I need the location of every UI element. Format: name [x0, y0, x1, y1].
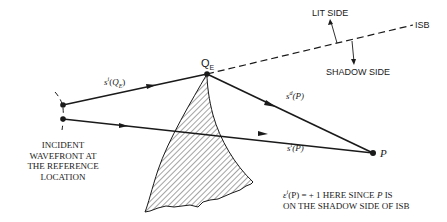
edge-point-label: QE: [201, 57, 214, 74]
observation-point-p: [370, 150, 376, 156]
wavefront-point-lower: [60, 116, 66, 122]
wavefront-caption: INCIDENT WAVEFRONT AT THE REFERENCE LOCA…: [20, 140, 106, 182]
incident-to-p-label: si(P): [287, 140, 304, 153]
lit-side-arrow: [331, 22, 337, 43]
arrowhead-icon: [328, 19, 333, 25]
shadow-note: εi(P) = + 1 HERE SINCE P IS ON THE SHADO…: [283, 187, 409, 211]
isb-label: ISB: [415, 20, 430, 30]
obstacle-wedge: [145, 74, 253, 212]
caption-line: INCIDENT: [20, 140, 106, 151]
arrowhead-icon: [264, 100, 276, 107]
arg-p: (P): [293, 91, 305, 101]
note-line-2: ON THE SHADOW SIDE OF ISB: [283, 201, 409, 212]
shadow-side-arrow: [352, 41, 354, 62]
caption-line: LOCATION: [20, 172, 106, 183]
edge-point-symbol: Q: [201, 57, 210, 69]
note-text: (P) = + 1 HERE SINCE: [288, 190, 377, 200]
note-text: IS: [382, 190, 392, 200]
caption-line: THE REFERENCE: [20, 161, 106, 172]
lit-side-label: LIT SIDE: [312, 8, 348, 18]
caption-line: WAVEFRONT AT: [20, 151, 106, 162]
wavefront-point-upper: [60, 102, 66, 108]
arrowhead-icon: [258, 131, 268, 136]
arrowhead-icon: [351, 59, 356, 65]
arg-p: (P): [292, 143, 304, 153]
diffracted-label: sd(P): [286, 88, 304, 101]
diagram-canvas: LIT SIDE ISB SHADOW SIDE QE si(QE) sd(P)…: [0, 0, 447, 222]
paren-close: ): [122, 77, 125, 87]
shadow-side-label: SHADOW SIDE: [326, 67, 390, 77]
observation-point-label: P: [380, 147, 387, 159]
incident-wavefront: [55, 92, 63, 130]
edge-point-subscript: E: [210, 64, 215, 71]
note-line-1: εi(P) = + 1 HERE SINCE P IS: [283, 187, 409, 201]
incident-to-edge-label: si(QE): [104, 74, 125, 91]
incident-ray-to-edge: [63, 74, 207, 105]
